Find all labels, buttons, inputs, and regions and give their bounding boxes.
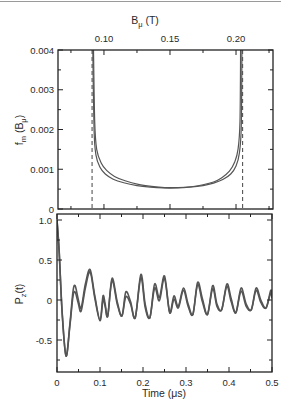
fm-curve-outer [93, 42, 242, 188]
top-y-tick-label: 0.004 [30, 45, 54, 56]
bottom-y-tick-label: 0.5 [39, 255, 52, 266]
top-x-tick-label: 0.10 [95, 33, 114, 44]
top-y-tick-label: 0.003 [30, 84, 54, 95]
top-panel: 0.100.150.20 00.0010.0020.0030.004 Bμ (T… [13, 14, 273, 215]
dashed-boundary-lines [92, 50, 243, 209]
top-y-ticks: 00.0010.0020.0030.004 [30, 45, 273, 215]
top-x-ticks: 0.100.150.20 [71, 33, 269, 209]
bottom-y-tick-label: -0.5 [36, 335, 52, 346]
top-y-axis-label: fm (Bμ) [13, 115, 28, 145]
fm-curves [93, 42, 242, 188]
bottom-x-axis-label: Time (μs) [142, 387, 186, 399]
fm-curve-inner [93, 42, 240, 188]
top-y-tick-label: 0.002 [30, 124, 54, 135]
top-y-tick-label: 0.001 [30, 164, 54, 175]
bottom-x-tick-label: 0.4 [222, 377, 235, 388]
pz-curve-2 [57, 220, 272, 356]
bottom-panel: 00.10.20.30.40.5 -0.500.51.0 Time (μs) P… [13, 214, 279, 399]
top-x-axis-label: Bμ (T) [131, 14, 159, 29]
bottom-y-tick-label: 0 [47, 295, 52, 306]
top-y-tick-label: 0 [49, 204, 54, 215]
bottom-x-tick-label: 0.5 [265, 377, 278, 388]
pz-curve-1 [57, 220, 272, 356]
figure: 0.100.150.20 00.0010.0020.0030.004 Bμ (T… [0, 0, 288, 417]
top-x-tick-label: 0.15 [161, 33, 180, 44]
pz-curves [57, 220, 272, 356]
bottom-x-tick-label: 0.1 [93, 377, 106, 388]
bottom-y-tick-label: 1.0 [39, 215, 52, 226]
bottom-x-tick-label: 0 [54, 377, 59, 388]
bottom-y-axis-label: Pz(t) [13, 284, 28, 305]
top-x-tick-label: 0.20 [227, 33, 246, 44]
